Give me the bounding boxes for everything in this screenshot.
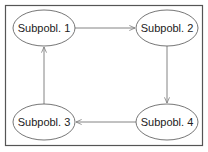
node-subpobl-2: Subpobl. 2	[136, 10, 198, 46]
cycle-diagram: Subpobl. 1 Subpobl. 2 Subpobl. 3 Subpobl…	[0, 0, 208, 152]
node-label: Subpobl. 2	[141, 22, 194, 34]
node-subpobl-4: Subpobl. 4	[136, 104, 198, 140]
node-label: Subpobl. 3	[18, 116, 71, 128]
node-label: Subpobl. 4	[141, 116, 194, 128]
node-subpobl-1: Subpobl. 1	[13, 10, 75, 46]
node-label: Subpobl. 1	[18, 22, 71, 34]
node-subpobl-3: Subpobl. 3	[13, 104, 75, 140]
